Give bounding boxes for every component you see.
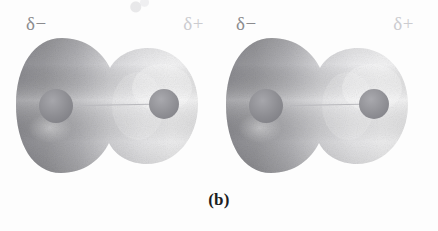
partial-negative-label: δ− xyxy=(26,14,47,33)
partial-positive-label: δ+ xyxy=(183,14,204,33)
figure-panel-b: δ− δ+ xyxy=(0,0,438,231)
partial-positive-label: δ+ xyxy=(393,14,414,33)
electron-cloud-right xyxy=(222,32,422,180)
nucleus-negative-atom xyxy=(39,89,73,123)
molecule-right: δ− δ+ xyxy=(222,0,422,196)
electron-cloud-left xyxy=(12,32,212,180)
figure-caption: (b) xyxy=(0,190,438,210)
molecule-left: δ− δ+ xyxy=(12,0,212,196)
partial-negative-label: δ− xyxy=(236,14,257,33)
molecule-pair: δ− δ+ xyxy=(0,0,438,196)
nucleus-negative-atom xyxy=(249,89,283,123)
nucleus-positive-atom xyxy=(149,89,179,119)
nucleus-positive-atom xyxy=(359,89,389,119)
